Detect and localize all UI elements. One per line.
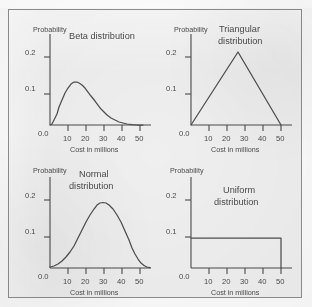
figure-frame: Probability Beta distribution 0.2 0.1 0.…	[8, 9, 302, 298]
triangular-xtick-40: 40	[258, 134, 266, 143]
normal-y-axis-title: Probability	[33, 166, 67, 175]
normal-xtick-40: 40	[117, 277, 125, 286]
scan-top-edge	[0, 0, 312, 8]
triangular-ytick-0.1: 0.1	[166, 84, 177, 93]
triangular-y-axis-title: Probability	[174, 25, 208, 34]
normal-chart-title-line1: Normal	[79, 169, 109, 179]
uniform-chart-svg: Probability Uniform distribution 0.2 0.1…	[156, 153, 303, 297]
beta-chart-svg: Probability Beta distribution 0.2 0.1 0.…	[11, 12, 158, 156]
triangular-origin-label: 0.0	[179, 129, 190, 138]
triangular-xtick-30: 30	[240, 134, 248, 143]
beta-xtick-20: 20	[81, 134, 89, 143]
uniform-curve	[191, 238, 281, 268]
uniform-ytick-0.2: 0.2	[166, 191, 177, 200]
uniform-xtick-10: 10	[204, 277, 212, 286]
uniform-y-axis-title: Probability	[170, 166, 204, 175]
beta-y-axis-title: Probability	[33, 25, 67, 34]
beta-curve	[50, 82, 143, 125]
triangular-xtick-50: 50	[276, 134, 284, 143]
normal-chart-title-line2: distribution	[69, 181, 113, 191]
beta-xtick-40: 40	[117, 134, 125, 143]
normal-ytick-0.1: 0.1	[25, 227, 36, 236]
uniform-ytick-0.1: 0.1	[166, 227, 177, 236]
normal-xtick-10: 10	[63, 277, 71, 286]
uniform-xtick-50: 50	[276, 277, 284, 286]
uniform-x-axis-title: Cost in millions	[211, 288, 260, 297]
beta-ytick-0.1: 0.1	[25, 84, 36, 93]
normal-origin-label: 0.0	[38, 272, 49, 281]
beta-ytick-0.2: 0.2	[25, 48, 36, 57]
beta-xtick-50: 50	[135, 134, 143, 143]
chart-panel-normal: Probability Normal distribution 0.2 0.1 …	[11, 153, 158, 297]
normal-ytick-0.2: 0.2	[25, 191, 36, 200]
triangular-curve	[191, 52, 281, 125]
beta-xtick-10: 10	[63, 134, 71, 143]
triangular-xtick-10: 10	[204, 134, 212, 143]
uniform-xtick-20: 20	[222, 277, 230, 286]
normal-xtick-30: 30	[99, 277, 107, 286]
chart-grid: Probability Beta distribution 0.2 0.1 0.…	[9, 10, 301, 297]
normal-x-axis-title: Cost in millions	[70, 288, 119, 297]
chart-panel-triangular: Probability Triangular distribution 0.2 …	[156, 12, 303, 156]
uniform-chart-title-line2: distribution	[214, 197, 258, 207]
beta-origin-label: 0.0	[38, 129, 49, 138]
uniform-chart-title-line1: Uniform	[223, 185, 256, 195]
triangular-ytick-0.2: 0.2	[166, 48, 177, 57]
triangular-xtick-20: 20	[222, 134, 230, 143]
normal-chart-svg: Probability Normal distribution 0.2 0.1 …	[11, 153, 158, 297]
normal-xtick-50: 50	[135, 277, 143, 286]
triangular-chart-title-line1: Triangular	[219, 24, 260, 34]
figure-root: Probability Beta distribution 0.2 0.1 0.…	[0, 0, 312, 307]
uniform-xtick-30: 30	[240, 277, 248, 286]
uniform-xtick-40: 40	[258, 277, 266, 286]
normal-curve	[50, 203, 150, 268]
chart-panel-beta: Probability Beta distribution 0.2 0.1 0.…	[11, 12, 158, 156]
triangular-chart-title-line2: distribution	[218, 36, 262, 46]
normal-xtick-20: 20	[81, 277, 89, 286]
uniform-origin-label: 0.0	[179, 272, 190, 281]
triangular-chart-svg: Probability Triangular distribution 0.2 …	[156, 12, 303, 156]
chart-panel-uniform: Probability Uniform distribution 0.2 0.1…	[156, 153, 303, 297]
beta-chart-title: Beta distribution	[69, 31, 135, 41]
beta-xtick-30: 30	[99, 134, 107, 143]
